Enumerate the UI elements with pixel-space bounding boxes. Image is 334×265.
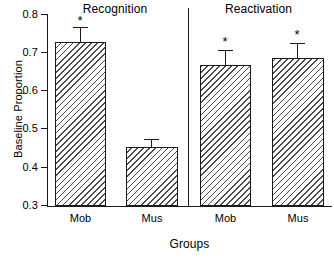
x-tick-label-reactivation-mob: Mob [200,212,251,224]
error-bar-stem-recognition-mob [80,27,81,43]
y-tick-label-0.6: 0.6 [0,84,38,96]
x-tick-label-recognition-mob: Mob [55,212,106,224]
y-tick-mark-0.7 [41,52,48,53]
y-axis-label: Baseline Proportion [12,14,24,204]
error-bar-cap-recognition-mus [144,139,159,140]
error-bar-cap-reactivation-mob [218,50,233,51]
y-axis-line [47,14,48,206]
error-bar-stem-reactivation-mob [225,50,226,66]
y-tick-mark-0.6 [41,90,48,91]
y-tick-mark-0.4 [41,167,48,168]
y-tick-label-0.3: 0.3 [0,199,38,211]
y-tick-label-0.7: 0.7 [0,46,38,58]
error-bar-stem-reactivation-mus [297,43,298,59]
x-axis-line [47,206,332,207]
bar-recognition-mob [55,42,106,206]
bar-recognition-mus [126,147,178,206]
bar-reactivation-mus [272,58,324,206]
y-tick-mark-0.8 [41,14,48,15]
x-tick-label-recognition-mus: Mus [126,212,178,224]
panel-divider [188,8,189,206]
x-tick-label-reactivation-mus: Mus [272,212,324,224]
significance-marker-reactivation-mus: * [290,28,304,41]
bar-chart-figure: Baseline Proportion 0.8 0.7 0.6 0.5 0.4 … [0,0,334,265]
significance-marker-reactivation-mob: * [218,35,232,48]
y-tick-label-0.4: 0.4 [0,161,38,173]
bar-reactivation-mob [200,65,251,206]
y-tick-label-0.8: 0.8 [0,8,38,20]
significance-marker-recognition-mob: * [73,14,87,27]
x-axis-label: Groups [47,237,332,251]
panel-title-reactivation: Reactivation [196,2,321,16]
error-bar-cap-reactivation-mus [290,43,305,44]
y-tick-mark-0.5 [41,128,48,129]
error-bar-stem-recognition-mus [151,139,152,148]
y-tick-label-0.5: 0.5 [0,122,38,134]
